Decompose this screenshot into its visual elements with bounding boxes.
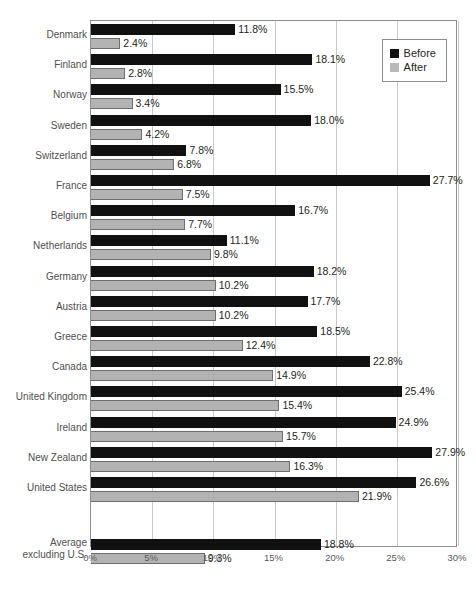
bar-value-label: 27.9% [432,447,465,458]
bar-value-label: 7.5% [183,189,210,200]
bar-group: 7.8%6.8% [91,143,456,171]
bar-after[interactable] [91,98,133,109]
bar-value-label: 18.8% [321,539,354,550]
bar-value-label: 15.4% [279,400,312,411]
bar-value-label: 18.2% [314,266,347,277]
bar-value-label: 10.2% [216,310,249,321]
bar-value-label: 4.2% [142,129,169,140]
legend-item-before[interactable]: Before [390,47,436,59]
category-label: Austria [1,301,87,312]
bar-value-label: 2.8% [125,68,152,79]
bar-after[interactable] [91,249,211,260]
category-label: Germany [1,271,87,282]
bar-before[interactable] [91,54,312,65]
bar-value-label: 27.7% [430,175,463,186]
bar-value-label: 21.9% [359,491,392,502]
gray-square-icon [390,63,399,72]
bar-group: 18.5%12.4% [91,324,456,352]
bar-value-label: 11.8% [235,24,267,35]
category-axis: DenmarkFinlandNorwaySwedenSwitzerlandFra… [0,20,87,547]
bar-before[interactable] [91,24,235,35]
bar-group: 16.7%7.7% [91,203,456,231]
x-axis: 0%5%10%15%20%25%30% [90,552,457,568]
category-label: Switzerland [1,150,87,161]
bar-after[interactable] [91,461,290,472]
bar-before[interactable] [91,235,227,246]
bar-after[interactable] [91,400,279,411]
bar-after[interactable] [91,129,142,140]
black-square-icon [390,49,399,58]
x-tick-label: 15% [264,552,283,563]
gridline [458,21,459,546]
bar-value-label: 18.0% [311,115,344,126]
bar-before[interactable] [91,175,430,186]
bar-value-label: 3.4% [133,98,160,109]
bar-value-label: 18.1% [312,54,345,65]
bar-after[interactable] [91,280,216,291]
category-label: Sweden [1,120,87,131]
legend-item-after[interactable]: After [390,61,436,73]
x-tick-label: 25% [386,552,405,563]
bar-value-label: 16.7% [295,205,328,216]
bar-group: 11.1%9.8% [91,233,456,261]
x-tick-label: 30% [447,552,466,563]
bar-before[interactable] [91,356,370,367]
chart-plot-frame: 11.8%2.4%18.1%2.8%15.5%3.4%18.0%4.2%7.8%… [90,20,457,547]
bar-after[interactable] [91,159,174,170]
bar-value-label: 16.3% [290,461,323,472]
bar-before[interactable] [91,386,402,397]
chart-legend: Before After [382,39,447,82]
legend-label-after: After [404,61,427,73]
bar-before[interactable] [91,477,416,488]
bar-value-label: 17.7% [308,296,341,307]
category-label: Ireland [1,422,87,433]
category-label: Denmark [1,29,87,40]
category-label: Belgium [1,210,87,221]
bar-after[interactable] [91,310,216,321]
x-tick-label: 5% [144,552,158,563]
bar-before[interactable] [91,266,314,277]
bar-after[interactable] [91,370,273,381]
bar-group: 18.0%4.2% [91,113,456,141]
bar-after[interactable] [91,431,283,442]
bar-value-label: 2.4% [120,38,147,49]
bar-after[interactable] [91,219,185,230]
category-label: Canada [1,361,87,372]
bar-value-label: 15.7% [283,431,316,442]
bar-value-label: 18.5% [317,326,350,337]
x-tick-label: 20% [325,552,344,563]
bar-after[interactable] [91,38,120,49]
bar-group: 18.2%10.2% [91,264,456,292]
bar-before[interactable] [91,296,308,307]
bar-value-label: 15.5% [281,84,314,95]
bar-value-label: 24.9% [396,417,429,428]
category-label: Netherlands [1,240,87,251]
bar-value-label: 22.8% [370,356,403,367]
bar-value-label: 25.4% [402,386,435,397]
bar-before[interactable] [91,447,432,458]
bar-value-label: 26.6% [416,477,449,488]
bar-value-label: 7.8% [186,145,213,156]
bar-after[interactable] [91,68,125,79]
bar-before[interactable] [91,205,295,216]
x-tick-label: 10% [203,552,222,563]
bar-before[interactable] [91,145,186,156]
bar-value-label: 11.1% [227,235,259,246]
bar-before[interactable] [91,417,396,428]
bar-after[interactable] [91,491,359,502]
bar-value-label: 6.8% [174,159,201,170]
bar-before[interactable] [91,326,317,337]
bar-group: 27.7%7.5% [91,173,456,201]
bar-after[interactable] [91,340,243,351]
bar-group: 15.5%3.4% [91,82,456,110]
x-tick-label: 0% [83,552,97,563]
bar-before[interactable] [91,115,311,126]
category-label: Averageexcluding U.S. [1,537,87,561]
bar-before[interactable] [91,539,321,550]
category-label: New Zealand [1,452,87,463]
bar-value-label: 7.7% [185,219,212,230]
bar-value-label: 10.2% [216,280,249,291]
bar-before[interactable] [91,84,281,95]
bar-after[interactable] [91,189,183,200]
bar-group: 22.8%14.9% [91,354,456,382]
